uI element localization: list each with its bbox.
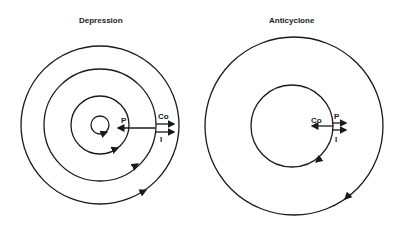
isobar-outer [21,46,179,204]
label-i: I [160,135,162,144]
flow-arrow-icon [140,190,146,193]
isobar-3 [71,96,129,154]
label-i: I [335,135,337,144]
diagram-canvas: P Co I Co P I [0,0,400,230]
depression-diagram [21,46,179,204]
label-p: P [334,112,340,121]
isobar-outer [205,37,383,215]
flow-arrow-icon [103,132,107,134]
label-p: P [121,116,127,125]
label-co: Co [311,116,322,125]
flow-arrow-icon [113,148,118,150]
isobar-inner [91,116,109,134]
anticyclone-diagram [205,37,383,215]
label-co: Co [158,112,169,121]
isobar-2 [44,69,156,181]
